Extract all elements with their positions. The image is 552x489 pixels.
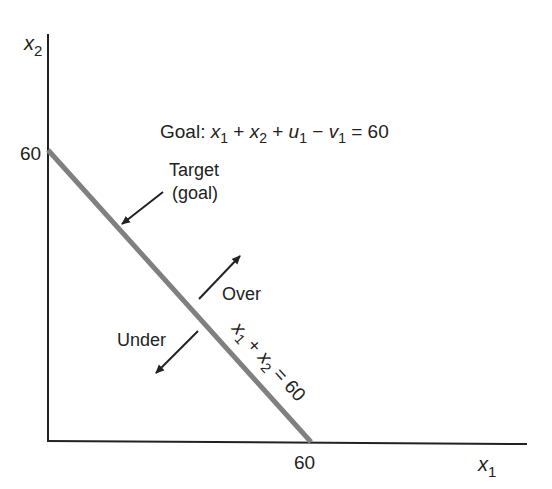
under-label: Under [117, 330, 166, 350]
y-tick-60: 60 [20, 143, 41, 164]
goal-label: (goal) [172, 183, 218, 203]
goal-equation: Goal: x1 + x2 + u1 − v1 = 60 [160, 121, 389, 146]
over-label: Over [222, 284, 261, 304]
goal-programming-diagram: x2 x1 60 60 Goal: x1 + x2 + u1 − v1 = 60… [0, 0, 552, 489]
x-axis [47, 441, 527, 444]
y-axis-label: x2 [23, 32, 42, 59]
x-tick-60: 60 [294, 452, 315, 473]
target-label: Target [169, 160, 219, 180]
target-arrow-icon [122, 192, 163, 224]
x-axis-label: x1 [477, 453, 496, 480]
